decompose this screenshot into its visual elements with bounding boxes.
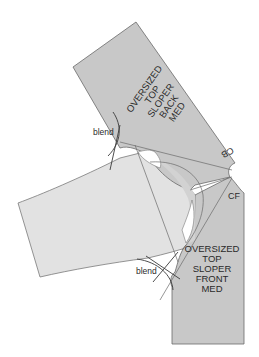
blend-label-bottom: blend [136, 266, 157, 276]
pattern-diagram: OVERSIZED TOP SLOPER BACK MED CB CF OVER… [0, 0, 259, 357]
cf-label: CF [228, 191, 240, 201]
blend-label-top: blend [93, 127, 114, 137]
svg-text:MED: MED [201, 283, 222, 294]
